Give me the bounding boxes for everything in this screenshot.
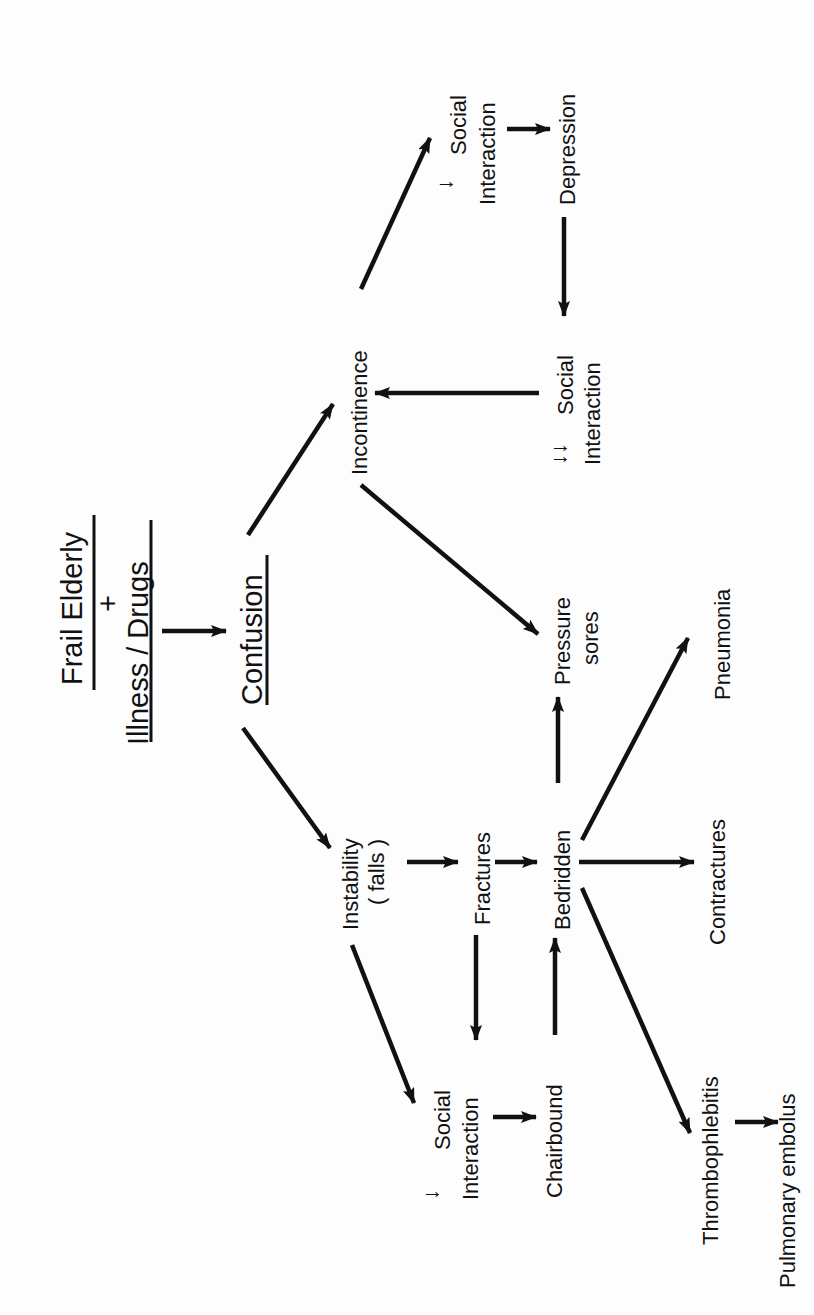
pressure-sores-line2: sores: [578, 611, 603, 665]
arrow-confusion-to-instability: [243, 728, 330, 848]
dec-social-1-line1: Social: [446, 95, 471, 155]
node-pulmonary-embolus: Pulmonary embolus: [775, 1094, 800, 1288]
dec-social-2-line2: Interaction: [580, 362, 605, 465]
node-contractures: Contractures: [705, 819, 730, 945]
dec-social-3-prefix: ↓: [418, 1189, 443, 1200]
instability-line1: Instability: [338, 838, 363, 930]
dec-social-1-prefix: ↓: [432, 179, 457, 190]
dec-social-3-line1: Social: [430, 1090, 455, 1150]
node-bedridden: Bedridden: [550, 830, 575, 930]
arrow-incontinence-to-pressure-sores: [361, 485, 538, 634]
flow-diagram: Frail Elderly + Illness / Drugs Confusio…: [0, 0, 814, 1315]
node-depression: Depression: [555, 94, 580, 205]
node-confusion: Confusion: [236, 574, 268, 705]
title-plus: +: [92, 595, 124, 612]
title-denominator: Illness / Drugs: [122, 561, 154, 745]
node-pneumonia: Pneumonia: [710, 588, 735, 700]
arrow-bedridden-to-pneumonia: [582, 638, 688, 840]
arrow-instability-to-social-3: [352, 945, 414, 1103]
title-numerator: Frail Elderly: [56, 531, 88, 685]
title-block: Frail Elderly + Illness / Drugs: [56, 515, 154, 745]
arrow-bedridden-to-thrombophlebitis: [582, 888, 690, 1133]
dec-social-1-line2: Interaction: [475, 102, 500, 205]
dec-social-2-prefix: ↓↓: [546, 443, 571, 465]
node-fractures: Fractures: [470, 832, 495, 925]
dec-social-2-line1: Social: [553, 355, 578, 415]
instability-line2: ( falls ): [364, 839, 389, 905]
dec-social-3-line2: Interaction: [458, 1097, 483, 1200]
pressure-sores-line1: Pressure: [550, 597, 575, 685]
arrow-confusion-to-incontinence: [248, 404, 333, 535]
node-thrombophlebitis: Thrombophlebitis: [698, 1076, 723, 1245]
arrow-incontinence-to-social-1: [361, 138, 430, 289]
node-chairbound: Chairbound: [542, 1084, 567, 1198]
node-incontinence: Incontinence: [347, 350, 372, 475]
